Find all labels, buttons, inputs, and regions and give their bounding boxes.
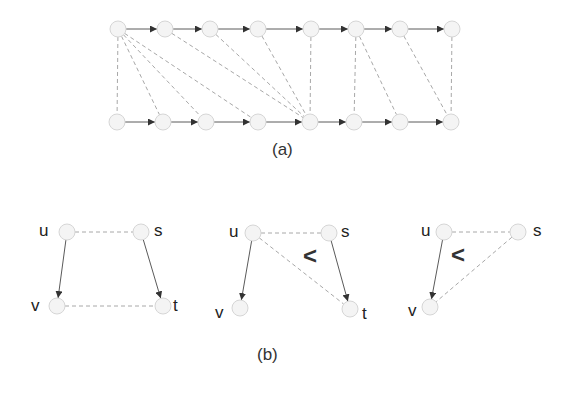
node-label-t: t [362, 305, 367, 322]
node-label-s: s [154, 222, 163, 239]
directed-edge-u-v [58, 240, 66, 298]
node-v [49, 298, 65, 314]
node-label-v: v [31, 297, 40, 314]
dashed-edge [359, 36, 396, 115]
figure-a-caption: (a) [272, 141, 293, 158]
subfigure-1 [49, 224, 171, 314]
dashed-edge [262, 36, 306, 115]
figure-b-caption: (b) [257, 346, 278, 363]
dashed-edge-u-t [259, 238, 343, 304]
graph-node-bottom [198, 114, 214, 130]
graph-node-top [110, 21, 126, 37]
node-label-s: s [341, 223, 350, 240]
dashed-edge [121, 36, 159, 115]
directed-edge-s-t [143, 240, 160, 299]
subfigure-3 [422, 224, 526, 315]
dashed-edge [123, 35, 200, 116]
node-label-s: s [533, 222, 542, 239]
figure-b-graphs [49, 224, 526, 317]
graph-node-top [157, 21, 173, 37]
less-than-symbol: < [303, 244, 317, 268]
directed-edge-u-v [431, 240, 442, 299]
subfigure-2 [232, 225, 358, 317]
node-s [510, 224, 526, 240]
node-v [232, 300, 248, 316]
graph-node-top [202, 21, 218, 37]
graph-node-top [303, 21, 319, 37]
diagram-canvas [0, 0, 573, 397]
graph-node-top [392, 21, 408, 37]
graph-node-bottom [346, 114, 362, 130]
dashed-edge [216, 34, 304, 116]
graph-node-bottom [250, 114, 266, 130]
dashed-edge [310, 37, 311, 114]
node-label-v: v [408, 302, 417, 319]
graph-node-top [250, 21, 266, 37]
less-than-symbol: < [451, 243, 465, 267]
dashed-edge [354, 37, 356, 114]
node-u [245, 225, 261, 241]
directed-edge-u-v [241, 241, 251, 300]
graph-node-bottom [109, 114, 125, 130]
dashed-edge [125, 33, 252, 117]
node-label-u: u [421, 222, 430, 239]
graph-node-bottom [302, 114, 318, 130]
graph-node-top [444, 21, 460, 37]
node-label-u: u [229, 223, 238, 240]
dashed-edge [451, 37, 452, 114]
node-t [342, 301, 358, 317]
node-s [321, 225, 337, 241]
graph-node-bottom [443, 114, 459, 130]
dashed-edge [117, 37, 118, 114]
node-s [133, 224, 149, 240]
node-t [155, 298, 171, 314]
node-u [436, 224, 452, 240]
directed-edge-s-t [331, 241, 348, 302]
node-u [59, 224, 75, 240]
node-label-v: v [215, 304, 224, 321]
dashed-edge-s-v [436, 237, 512, 302]
graph-node-bottom [392, 114, 408, 130]
node-label-u: u [39, 222, 48, 239]
node-label-t: t [173, 297, 178, 314]
graph-node-top [348, 21, 364, 37]
dashed-edge [404, 36, 447, 115]
node-v [422, 299, 438, 315]
graph-node-bottom [155, 114, 171, 130]
figure-a-graph [109, 21, 460, 130]
